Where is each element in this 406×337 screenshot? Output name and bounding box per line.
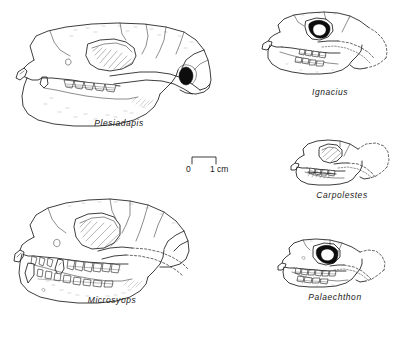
specimen-label-carpolestes: Carpolestes	[290, 190, 394, 200]
scale-bar: 0 1 cm	[186, 155, 226, 167]
specimen-label-plesiadapis: Plesiadapis	[14, 118, 224, 128]
palaechthon-skull-drawing	[278, 238, 392, 288]
microsyops-skull-drawing	[12, 193, 212, 305]
scale-unit-label: 1 cm	[210, 164, 228, 174]
microsyops-lower-tooth-row	[37, 269, 113, 287]
specimen-label-palaechthon: Palaechthon	[278, 292, 392, 302]
ignacius-skull-drawing	[262, 8, 398, 80]
orbit-shading	[93, 47, 133, 69]
plesiadapis-skull-drawing	[14, 14, 224, 129]
skull-figure-palaechthon: Palaechthon	[278, 238, 392, 288]
auditory-meatus	[179, 67, 193, 85]
skull-figure-plesiadapis: Plesiadapis	[14, 14, 224, 129]
ignacius-lower-tooth-row	[295, 57, 324, 66]
palaechthon-lower-tooth-row	[297, 276, 328, 284]
skull-figure-ignacius: Ignacius	[262, 8, 398, 80]
scale-zero-label: 0	[186, 164, 191, 174]
specimen-label-ignacius: Ignacius	[262, 87, 398, 97]
microsyops-upper-tooth-row	[31, 256, 120, 277]
orbit-shading	[80, 221, 120, 248]
skull-figure-carpolestes: Carpolestes	[290, 138, 394, 186]
ignacius-upper-tooth-row	[299, 49, 326, 58]
plesiadapis-upper-tooth-row	[64, 80, 116, 92]
specimen-label-microsyops: Microsyops	[12, 295, 212, 305]
carpolestes-skull-drawing	[290, 138, 394, 186]
skull-comparison-plate: Plesiadapis 0 1 cm	[0, 0, 406, 337]
palaechthon-upper-tooth-row	[295, 268, 336, 276]
skull-figure-microsyops: Microsyops	[12, 193, 212, 305]
